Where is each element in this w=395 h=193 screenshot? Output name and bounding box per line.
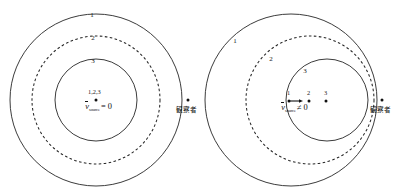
formula-source-velocity-left: vsource= 0 <box>85 103 112 112</box>
source-point-3-right <box>325 100 328 103</box>
velocity-relation-left: = 0 <box>100 102 112 111</box>
observer-point-right <box>381 99 384 102</box>
ring-label-2-right: 2 <box>269 55 273 63</box>
velocity-subscript-right: source <box>285 108 296 113</box>
emission-label-3-right: 3 <box>324 89 327 96</box>
wavefront-ring-1-right <box>205 14 377 186</box>
formula-source-velocity-right: vsource≠ 0 <box>281 104 308 113</box>
source-point-2-right <box>308 100 311 103</box>
observer-label-left: 観察者 <box>176 104 196 114</box>
velocity-symbol-left: v <box>85 102 89 111</box>
ring-label-1-left: 1 <box>90 11 94 19</box>
ring-label-3-right: 3 <box>303 67 307 75</box>
observer-point-left <box>187 99 190 102</box>
emission-label-1-right: 1 <box>287 89 290 96</box>
ring-label-3-left: 3 <box>91 57 95 65</box>
velocity-relation-right: ≠ 0 <box>296 103 308 112</box>
emission-labels-left: 1,2,3 <box>88 88 101 95</box>
ring-label-2-left: 2 <box>91 34 95 42</box>
emission-label-2-right: 2 <box>307 89 310 96</box>
observer-label-right: 観察者 <box>370 104 390 114</box>
panel-moving-source: 1 2 3 <box>205 14 384 186</box>
source-point-left <box>95 99 98 102</box>
velocity-symbol-right: v <box>281 103 285 112</box>
velocity-subscript-left: source <box>89 107 100 112</box>
panel-stationary-source: 1 2 3 1 2 3 <box>0 0 395 193</box>
doppler-effect-figure: 1 2 3 1 2 3 1,2,3 vs <box>0 0 395 193</box>
ring-label-1-right: 1 <box>233 37 237 45</box>
